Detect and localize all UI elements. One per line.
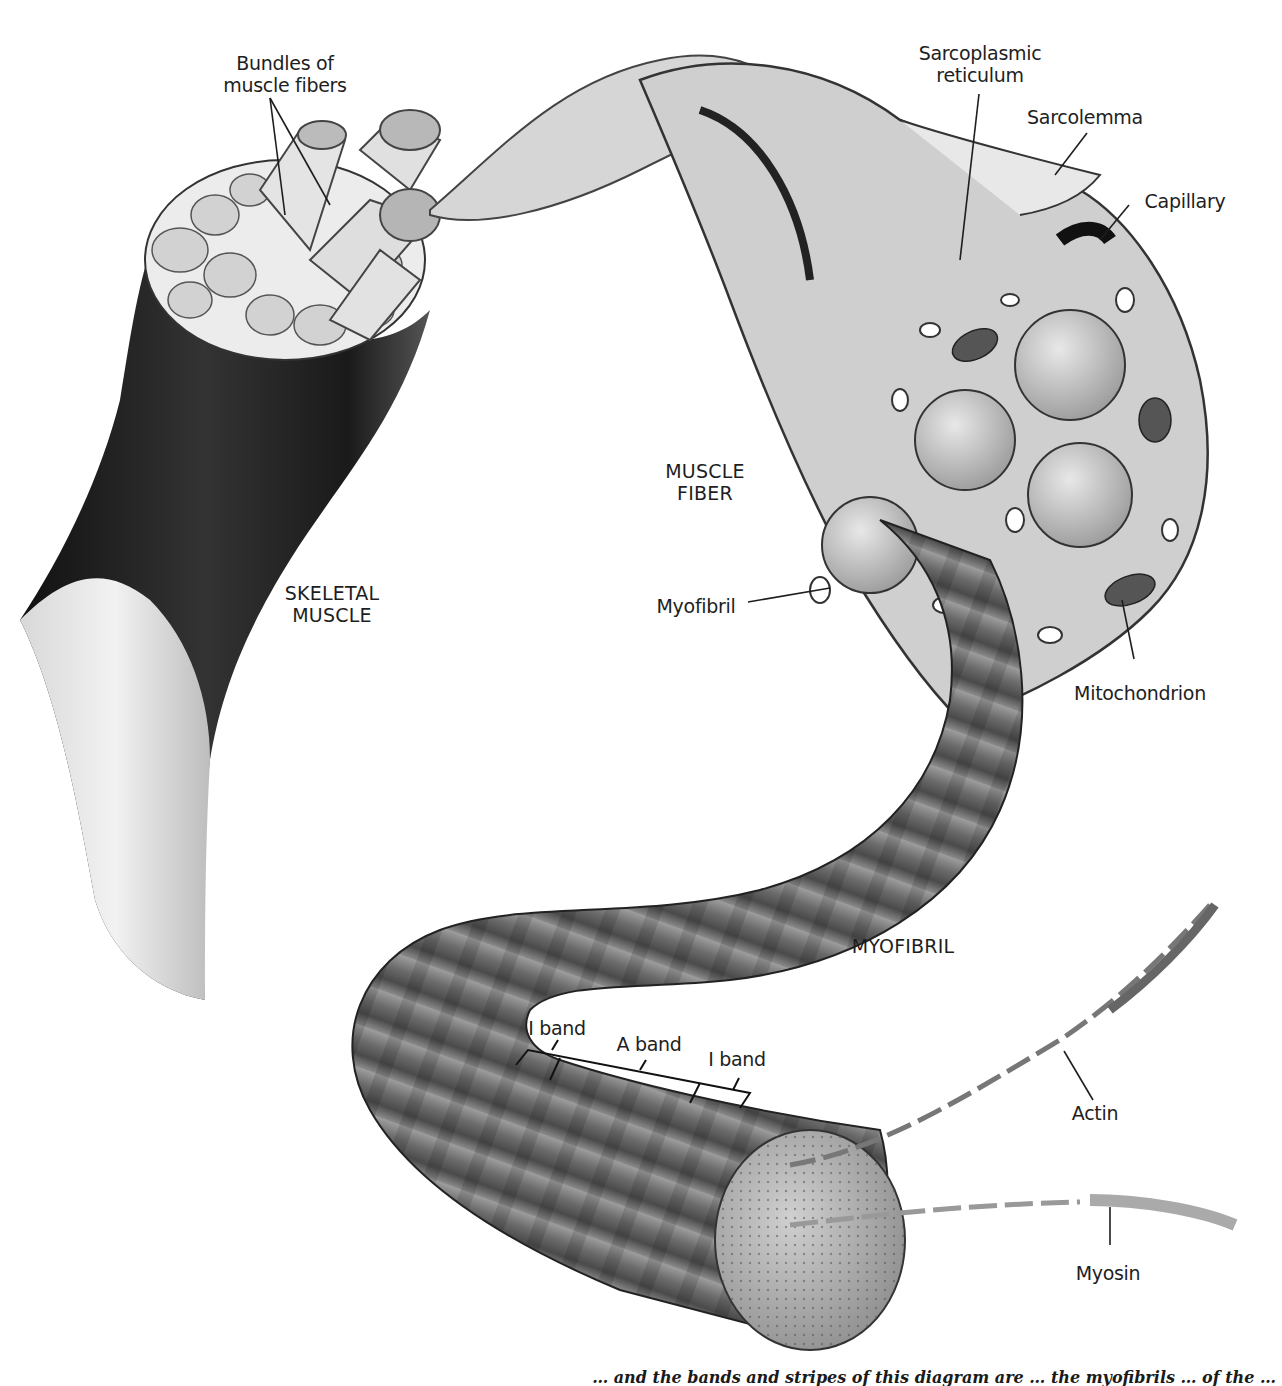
muscle-fiber [640, 64, 1208, 720]
label-a-band: A band [604, 1033, 694, 1055]
skeletal-muscle [20, 56, 800, 1000]
label-mitochondrion: Mitochondrion [1060, 682, 1220, 704]
label-sarcolemma: Sarcolemma [1015, 106, 1155, 128]
label-sarcoplasmic-reticulum: Sarcoplasmic reticulum [900, 42, 1060, 86]
label-line: Bundles of [210, 52, 360, 74]
label-actin: Actin [1060, 1102, 1130, 1124]
label-bundles-of-muscle-fibers: Bundles of muscle fibers [210, 52, 360, 96]
label-line: FIBER [660, 482, 750, 504]
caption-text: … and the bands and stripes of this diag… [592, 1368, 1276, 1386]
label-muscle-fiber: MUSCLE FIBER [660, 460, 750, 504]
label-myofibril-caps: MYOFIBRIL [838, 935, 968, 957]
label-skeletal-muscle: SKELETAL MUSCLE [272, 582, 392, 626]
label-myofibril: Myofibril [646, 595, 746, 617]
label-line: MUSCLE [272, 604, 392, 626]
label-capillary: Capillary [1130, 190, 1240, 212]
caption-fragment: … and the bands and stripes of this diag… [0, 1368, 1282, 1386]
label-myosin: Myosin [1063, 1262, 1153, 1284]
label-line: muscle fibers [210, 74, 360, 96]
label-i-band-right: I band [702, 1048, 772, 1070]
label-line: MUSCLE [660, 460, 750, 482]
label-line: SKELETAL [272, 582, 392, 604]
label-line: Sarcoplasmic [900, 42, 1060, 64]
label-i-band-left: I band [522, 1017, 592, 1039]
label-line: reticulum [900, 64, 1060, 86]
